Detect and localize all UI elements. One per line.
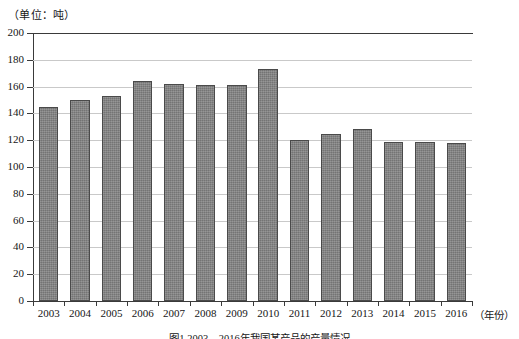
y-axis-tick-label: 40	[0, 241, 24, 252]
y-axis-tick-label: 60	[0, 215, 24, 226]
x-axis-tick	[315, 301, 316, 306]
y-axis-tick-label: 0	[0, 295, 24, 306]
y-axis-tick-label: 20	[0, 268, 24, 279]
x-axis-tick	[158, 301, 159, 306]
x-axis-tick	[253, 301, 254, 306]
y-axis-tick-label: 200	[0, 27, 24, 38]
y-axis-unit-label: （单位：吨）	[8, 6, 76, 22]
bar-2015	[415, 142, 434, 301]
y-axis-tick-label: 160	[0, 81, 24, 92]
x-axis-tick	[347, 301, 348, 306]
x-axis-tick	[409, 301, 410, 306]
bar-2009	[227, 85, 246, 301]
bar-2013	[353, 129, 372, 301]
x-axis-tick	[64, 301, 65, 306]
x-axis-tick	[378, 301, 379, 306]
y-axis-tick-label: 80	[0, 188, 24, 199]
x-axis-tick	[33, 301, 34, 306]
x-axis-tick-label-2016: 2016	[436, 307, 476, 319]
x-axis-unit-label: （年份）	[474, 307, 514, 322]
y-axis-tick-label: 140	[0, 107, 24, 118]
y-axis-tick-label: 100	[0, 161, 24, 172]
bar-2005	[102, 96, 121, 301]
x-axis-tick	[284, 301, 285, 306]
bar-2008	[196, 85, 215, 301]
x-axis-tick	[96, 301, 97, 306]
x-axis-tick	[190, 301, 191, 306]
bar-2010	[258, 69, 277, 301]
bar-chart-figure: （单位：吨） 020406080100120140160180200 20032…	[0, 0, 519, 339]
bar-2003	[39, 107, 58, 301]
bar-2006	[133, 81, 152, 301]
bars-group	[33, 33, 472, 301]
y-axis-tick-label: 180	[0, 54, 24, 65]
bar-2004	[70, 100, 89, 301]
x-axis-tick	[221, 301, 222, 306]
figure-caption: 图1 2003—2016年我国某产品的产量情况	[0, 330, 519, 339]
bar-2016	[447, 143, 466, 301]
bar-2011	[290, 140, 309, 301]
bar-2014	[384, 142, 403, 301]
x-axis-tick	[127, 301, 128, 306]
bar-2012	[321, 134, 340, 302]
y-axis-tick-label: 120	[0, 134, 24, 145]
x-axis-tick	[441, 301, 442, 306]
bar-2007	[164, 84, 183, 301]
x-axis-tick	[472, 301, 473, 306]
